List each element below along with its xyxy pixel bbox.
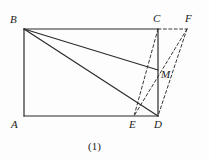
figure-canvas [0,0,209,160]
vertex-label-e: E [129,119,136,130]
figure-caption: (1) [88,141,101,152]
vertex-label-b: B [10,14,17,25]
vertex-label-c: C [153,13,160,24]
solid-segment-group [24,29,158,116]
geometry-figure: ABCDEFM (1) [0,0,209,160]
segment-BD [24,29,158,116]
vertex-label-f: F [185,13,192,24]
vertex-label-d: D [154,119,162,130]
segment-BM [24,29,158,70]
vertex-label-m: M [161,69,170,80]
vertex-label-a: A [11,119,18,130]
